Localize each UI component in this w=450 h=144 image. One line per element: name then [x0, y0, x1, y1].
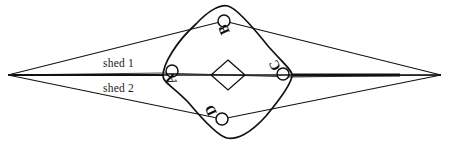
- shed-diagram-svg: A B C D: [0, 0, 450, 144]
- marker-d-circle: [216, 113, 228, 125]
- shed2-label: shed 2: [103, 82, 134, 94]
- shed1-upper-warp-right: [224, 21, 441, 75]
- shed2-lower-warp-right: [222, 75, 441, 119]
- shed1-label: shed 1: [103, 57, 134, 69]
